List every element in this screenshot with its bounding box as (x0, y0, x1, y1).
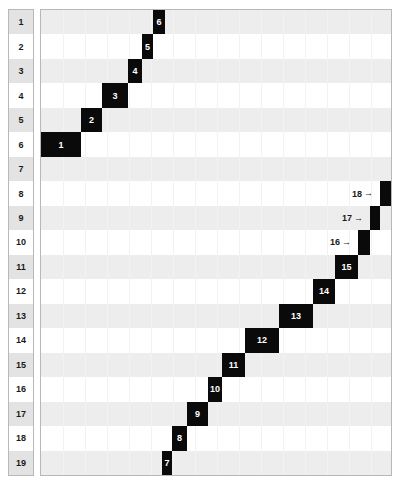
block-callout-text-16: 16 (330, 237, 340, 247)
matrix-chart-root: 12345678910111213141516171819 1234567891… (0, 0, 401, 485)
row-band-9 (41, 206, 391, 230)
row-header-label-6: 6 (9, 132, 33, 156)
row-header-label-4: 4 (9, 83, 33, 107)
row-header-label-16: 16 (9, 377, 33, 401)
matrix-block-5[interactable]: 5 (142, 34, 153, 58)
matrix-block-6[interactable]: 6 (153, 10, 165, 34)
vertical-gridline (283, 10, 284, 475)
row-header-label-5: 5 (9, 108, 33, 132)
matrix-block-3[interactable]: 3 (102, 83, 128, 107)
row-header-label-12: 12 (9, 279, 33, 303)
vertical-gridline (327, 10, 328, 475)
row-header-axis: 12345678910111213141516171819 (8, 9, 34, 476)
row-header-label-17: 17 (9, 402, 33, 426)
row-band-15 (41, 353, 391, 377)
vertical-gridline (85, 10, 86, 475)
vertical-gridline (173, 10, 174, 475)
vertical-gridline (151, 10, 152, 475)
matrix-block-11[interactable]: 11 (222, 353, 245, 377)
block-callout-text-18: 18 (352, 189, 362, 199)
matrix-block-9[interactable]: 9 (187, 402, 208, 426)
row-band-18 (41, 426, 391, 450)
row-band-6 (41, 132, 391, 156)
arrow-right-icon: → (354, 214, 363, 223)
vertical-gridline (305, 10, 306, 475)
vertical-gridline (261, 10, 262, 475)
row-band-8 (41, 181, 391, 205)
row-header-label-7: 7 (9, 157, 33, 181)
row-band-1 (41, 10, 391, 34)
row-band-7 (41, 157, 391, 181)
matrix-block-7[interactable]: 7 (162, 451, 172, 475)
vertical-gridline (217, 10, 218, 475)
matrix-plot-area: 12345678910111213141518→17→16→ (40, 9, 392, 476)
row-band-19 (41, 451, 391, 475)
matrix-block-4[interactable]: 4 (128, 59, 142, 83)
row-band-17 (41, 402, 391, 426)
row-header-label-13: 13 (9, 304, 33, 328)
vertical-gridline (371, 10, 372, 475)
row-band-13 (41, 304, 391, 328)
block-callout-16: 16→ (330, 230, 351, 254)
row-band-4 (41, 83, 391, 107)
vertical-gridline (107, 10, 108, 475)
row-band-2 (41, 34, 391, 58)
row-header-label-15: 15 (9, 353, 33, 377)
matrix-block-8[interactable]: 8 (172, 426, 187, 450)
matrix-block-13[interactable]: 13 (279, 304, 313, 328)
block-callout-17: 17→ (342, 206, 363, 230)
row-band-14 (41, 328, 391, 352)
matrix-block-1[interactable]: 1 (41, 132, 81, 156)
matrix-block-10[interactable]: 10 (208, 377, 222, 401)
matrix-block-14[interactable]: 14 (313, 279, 335, 303)
vertical-gridline (239, 10, 240, 475)
row-header-label-1: 1 (9, 10, 33, 34)
matrix-block-17[interactable] (370, 206, 380, 230)
row-band-3 (41, 59, 391, 83)
row-header-label-9: 9 (9, 206, 33, 230)
row-header-label-14: 14 (9, 328, 33, 352)
row-header-label-3: 3 (9, 59, 33, 83)
row-header-label-8: 8 (9, 181, 33, 205)
matrix-block-18[interactable] (380, 181, 392, 205)
row-band-12 (41, 279, 391, 303)
vertical-gridline (63, 10, 64, 475)
row-header-label-10: 10 (9, 230, 33, 254)
block-callout-18: 18→ (352, 181, 373, 205)
arrow-right-icon: → (342, 238, 351, 247)
matrix-block-16[interactable] (358, 230, 370, 254)
matrix-block-2[interactable]: 2 (81, 108, 102, 132)
row-header-label-11: 11 (9, 255, 33, 279)
arrow-right-icon: → (364, 189, 373, 198)
row-header-label-2: 2 (9, 34, 33, 58)
matrix-block-15[interactable]: 15 (335, 255, 358, 279)
row-header-label-19: 19 (9, 451, 33, 475)
block-callout-text-17: 17 (342, 213, 352, 223)
row-header-label-18: 18 (9, 426, 33, 450)
matrix-block-12[interactable]: 12 (245, 328, 279, 352)
